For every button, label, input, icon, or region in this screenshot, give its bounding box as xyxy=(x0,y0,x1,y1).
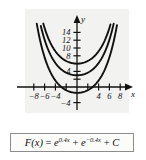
x-tick-label--8: −8 xyxy=(29,91,40,101)
plot-area: −8 −6 −4 4 6 8 −4 4 8 10 12 14 y x xyxy=(9,9,137,121)
x-tick-label-8: 8 xyxy=(118,91,123,101)
y-axis-label: y xyxy=(80,14,85,24)
formula-text: F(x) = e0.4x + e−0.4x + C xyxy=(25,137,119,148)
formula-box: F(x) = e0.4x + e−0.4x + C xyxy=(10,133,134,152)
y-tick-label--4: −4 xyxy=(61,98,72,108)
x-tick-label-4: 4 xyxy=(96,91,101,101)
y-tick-label-14: 14 xyxy=(62,27,71,37)
formula-term2-exponent: −0.4x xyxy=(86,136,101,143)
y-axis-arrow xyxy=(74,15,81,23)
formula-equals: = xyxy=(46,137,52,148)
formula-plus-1: + xyxy=(72,137,78,148)
formula-lhs: F(x) xyxy=(25,137,43,148)
scan-watermark: ··· xyxy=(12,1,38,9)
x-tick-label--6: −6 xyxy=(40,91,51,101)
figure-antiderivative-family: ··· xyxy=(0,0,146,160)
formula-plus-2: + xyxy=(104,137,110,148)
formula-constant: C xyxy=(112,137,119,148)
graph-svg: −8 −6 −4 4 6 8 −4 4 8 10 12 14 y x xyxy=(9,9,137,121)
x-tick-label-6: 6 xyxy=(107,91,112,101)
x-axis-label: x xyxy=(130,89,135,99)
formula-term1-exponent: 0.4x xyxy=(59,136,70,143)
